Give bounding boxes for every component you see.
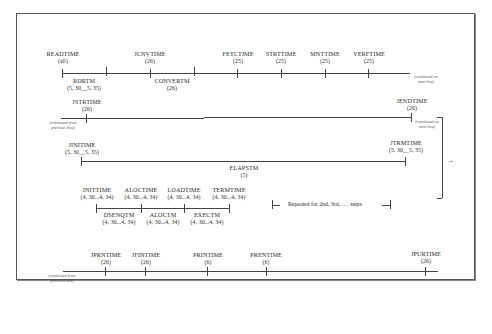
timeline-row3 <box>81 161 406 162</box>
tick-strttime <box>281 69 282 78</box>
timeline-row2-cont <box>204 117 412 118</box>
label-aloctime: ALOCTIME(4, 30...4, 34) <box>125 186 158 201</box>
note-continued-from-previous-line-2: (continued from previous line) <box>46 120 80 130</box>
label-mnttime: MNTTIME(25) <box>310 50 340 65</box>
tick-loadtime <box>184 204 185 213</box>
label-prentime: PRENTIME(6) <box>250 251 282 266</box>
label-aloctm: ALOCTM(4, 30...4, 34) <box>147 211 180 226</box>
label-loadtime: LOADTIME(4, 30...4, 34) <box>167 186 200 201</box>
label-elapstm: ELAPSTM(5) <box>230 164 259 179</box>
label-readtime: READTIME(all) <box>47 50 80 65</box>
label-inittime: INITTIME(4, 30...4, 34) <box>81 186 114 201</box>
label-fetctime: FETCTIME(25) <box>222 50 253 65</box>
tick-rdrtm-end <box>106 67 107 76</box>
label-convertm: CONVERTM(26) <box>154 77 189 92</box>
tick-jtrmtime <box>405 157 406 166</box>
timeline-row1 <box>62 73 188 74</box>
repeat-note: Repeated for 2nd, 3rd, . . . steps <box>288 201 362 207</box>
tick-aloctime <box>141 204 142 213</box>
timeline-row1-cont <box>188 73 410 74</box>
tick-convertm-end <box>194 67 195 76</box>
label-jendtime: JENDTIME(26) <box>396 97 427 112</box>
tick-fetctime <box>237 69 238 78</box>
repeat-line-right <box>382 205 390 206</box>
tick-printime <box>207 267 208 276</box>
tick-readtime <box>62 69 63 78</box>
tick-jendtime <box>411 113 412 122</box>
label-jinitime: JINITIME(5, 30__5, 35) <box>65 141 99 156</box>
label-jpurtime: JPURTIME(26) <box>411 250 441 265</box>
tick-jpurtime <box>425 267 426 276</box>
tick-termtime <box>229 204 230 213</box>
note-continued-on-next-line-2: (continued on next line) <box>413 119 441 129</box>
label-verftime: VERFTIME(25) <box>353 50 385 65</box>
note-continued-from-previous-line-5: (continued from previous line) <box>43 273 81 283</box>
timeline-row2 <box>61 118 204 119</box>
label-exectm: EXECTM(4, 30...4, 34) <box>191 211 224 226</box>
tick-jfintime <box>145 267 146 276</box>
timeline-row5 <box>63 271 438 272</box>
note-continued-on-next-line-1: (continued on next line) <box>412 74 440 84</box>
label-termtime: TERMTIME(4, 30...4, 34) <box>212 186 245 201</box>
label-jfintime: JFINTIME(26) <box>132 251 160 266</box>
label-jtrmtime: JTRMTIME(5, 30__5, 35) <box>389 139 423 154</box>
tick-inittime <box>96 204 97 213</box>
tick-jstrtime <box>86 114 87 123</box>
bracket-bottom <box>437 198 442 199</box>
label-jstrtime: JSTRTIME(26) <box>72 98 101 113</box>
label-dsenqtm: DSENQTM(4, 30...4, 34) <box>103 211 136 226</box>
label-rdrtm: RDRTM(5, 30__5, 35) <box>67 77 101 92</box>
tick-jcnvtime <box>150 69 151 78</box>
tick-prentime <box>266 267 267 276</box>
tick-verftime <box>368 69 369 78</box>
label-printime: PRINTIME(6) <box>193 251 223 266</box>
repeat-line-left <box>272 205 280 206</box>
tick-jprntime <box>105 267 106 276</box>
tick-jinitime <box>81 157 82 166</box>
label-jprntime: JPRNTIME(26) <box>91 251 121 266</box>
label-strttime: STRTTIME(25) <box>266 50 297 65</box>
timeline-row4 <box>96 208 230 209</box>
tick-mnttime <box>325 69 326 78</box>
arrow-right-icon: → <box>446 156 454 165</box>
bracket-vertical <box>442 117 443 198</box>
repeat-bracket-right <box>390 200 391 209</box>
label-jcnvtime: JCNVTIME(26) <box>134 50 165 65</box>
